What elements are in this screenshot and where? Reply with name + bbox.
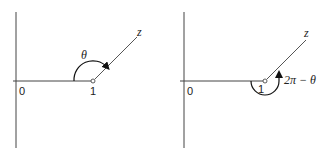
origin-label: 0 [19,85,25,97]
angle-arc-2pi-minus-theta [251,74,279,95]
point-label: 1 [90,85,96,97]
diagram-canvas: 0 1 z θ 0 1 z 2π − θ [0,0,324,157]
z-label: z [136,25,142,39]
panel-right: 0 1 z 2π − θ [180,12,316,148]
branch-point-1 [91,79,95,83]
panel-left: 0 1 z θ [13,12,142,148]
ray-to-z [95,37,137,79]
theta-label: θ [81,48,87,62]
angle-arc-theta [74,61,107,81]
z-label: z [303,26,309,40]
angle-label: 2π − θ [284,73,316,87]
origin-label: 0 [187,85,193,97]
point-label: 1 [258,83,264,95]
